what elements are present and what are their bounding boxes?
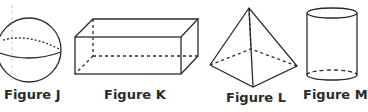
pyramid-outline <box>210 8 297 87</box>
sphere-figure-j <box>0 5 61 82</box>
figure-k-label: Figure K <box>104 87 166 102</box>
prism-figure-k <box>75 19 198 74</box>
cylinder-figure-m <box>307 8 357 80</box>
pyramid-hidden-base <box>210 49 297 66</box>
figure-l-label: Figure L <box>226 90 286 105</box>
figure-j-label: Figure J <box>4 87 61 102</box>
figure-m-label: Figure M <box>303 87 368 102</box>
sphere-outline <box>0 18 61 82</box>
cylinder-bottom-back <box>307 70 357 75</box>
sphere-equator-front <box>0 52 61 58</box>
cylinder-top <box>307 8 357 18</box>
cylinder-bottom-front <box>307 75 357 80</box>
prism-hidden-diagonal <box>75 56 93 74</box>
pyramid-figure-l <box>210 8 297 87</box>
